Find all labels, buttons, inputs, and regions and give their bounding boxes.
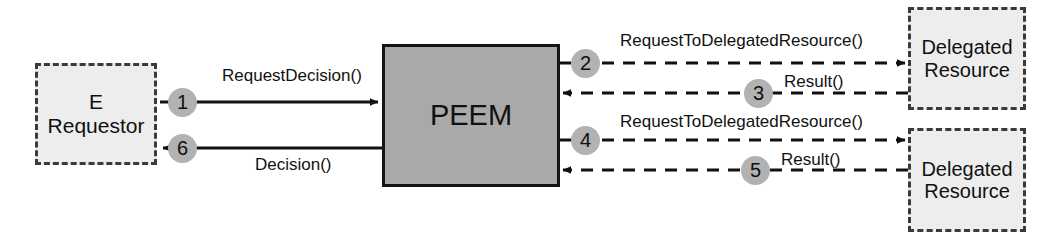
sequence-diagram: E Requestor PEEM Delegated Resource Dele… — [0, 0, 1061, 244]
message-label-1: RequestDecision() — [222, 66, 362, 86]
node-peem-label: PEEM — [430, 99, 512, 131]
node-delegated-resource-2[interactable]: Delegated Resource — [908, 128, 1026, 232]
sequence-marker-1[interactable]: 1 — [168, 88, 197, 117]
message-label-6: Decision() — [255, 155, 332, 175]
node-delegated-resource-1[interactable]: Delegated Resource — [908, 7, 1026, 110]
sequence-marker-4[interactable]: 4 — [571, 126, 600, 155]
message-label-4: RequestToDelegatedResource() — [620, 112, 863, 132]
node-delegated-resource-2-label-line-1: Delegated — [921, 158, 1012, 180]
node-delegated-resource-1-label-line-2: Resource — [924, 59, 1010, 81]
message-label-3: Result() — [784, 72, 844, 92]
node-delegated-resource-2-label-line-2: Resource — [924, 180, 1010, 202]
sequence-marker-6[interactable]: 6 — [168, 134, 197, 163]
sequence-marker-5[interactable]: 5 — [741, 156, 770, 185]
node-peem[interactable]: PEEM — [382, 44, 560, 187]
message-label-5: Result() — [781, 150, 841, 170]
node-delegated-resource-1-label-line-1: Delegated — [921, 36, 1012, 58]
node-e-requestor-label-line-2: Requestor — [48, 114, 145, 138]
message-label-2: RequestToDelegatedResource() — [620, 31, 863, 51]
node-e-requestor[interactable]: E Requestor — [35, 63, 157, 165]
sequence-marker-3[interactable]: 3 — [744, 79, 773, 108]
node-e-requestor-label-line-1: E — [89, 90, 103, 114]
sequence-marker-2[interactable]: 2 — [571, 49, 600, 78]
